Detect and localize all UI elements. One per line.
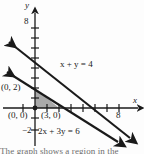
equation-label-line-1: x + y = 4 [60, 60, 93, 69]
point-label-0-0: (0, 0) [8, 111, 28, 120]
x-axis-label: x [133, 96, 137, 105]
y-tick-label-neg2: −2 [22, 126, 32, 135]
graph-figure: y x 8 −2 8 (0, 2) (0, 0) (3, 0) x + y = … [0, 0, 144, 154]
point-label-0-2: (0, 2) [1, 83, 21, 92]
line-x-plus-y-equals-4 [9, 42, 130, 138]
point-label-3-0: (3, 0) [41, 111, 61, 120]
y-axis-label: y [25, 1, 29, 10]
x-tick-label-8: 8 [116, 111, 121, 120]
origin-point-marker [33, 106, 38, 111]
cut-off-caption: The graph shows a region in the [0, 146, 144, 154]
y-tick-label-8: 8 [24, 17, 29, 26]
equation-label-line-2: 2x + 3y = 6 [38, 127, 80, 136]
